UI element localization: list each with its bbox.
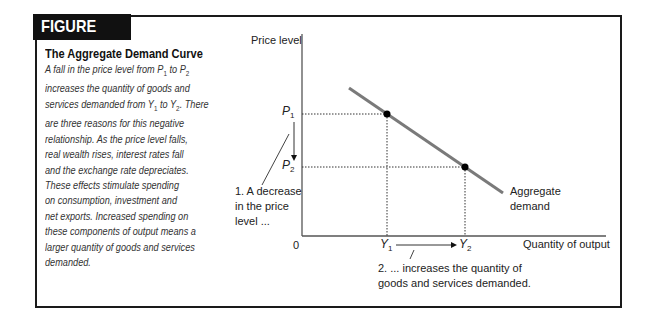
annotation-line: 2. ... increases the quantity of <box>378 261 531 276</box>
point-p2-y2 <box>462 164 469 171</box>
annotation-line: goods and services demanded. <box>378 276 531 291</box>
curve-label-line: demand <box>510 199 561 214</box>
annotation-line: 1. A decrease <box>235 184 302 199</box>
annotation-line: in the price <box>235 199 302 214</box>
annotation-2: 2. ... increases the quantity of goods a… <box>378 261 531 291</box>
y2-label: Y2 <box>459 237 471 253</box>
p1-label: P1 <box>282 104 294 120</box>
arrow-head-right-icon <box>451 242 457 248</box>
origin-label: 0 <box>293 239 299 251</box>
curve-label: Aggregate demand <box>510 184 561 214</box>
curve-label-line: Aggregate <box>510 184 561 199</box>
annotation-1: 1. A decrease in the price level ... <box>235 184 302 229</box>
ad-diagram <box>0 0 652 320</box>
p2-label: P2 <box>282 158 294 174</box>
annotation-line: level ... <box>235 214 302 229</box>
annotation2-leader <box>410 250 414 259</box>
point-p1-y1 <box>384 111 391 118</box>
aggregate-demand-curve <box>349 88 503 193</box>
y1-label: Y1 <box>380 237 392 253</box>
y-axis-label: Price level <box>251 34 302 46</box>
x-axis-label: Quantity of output <box>523 238 610 250</box>
